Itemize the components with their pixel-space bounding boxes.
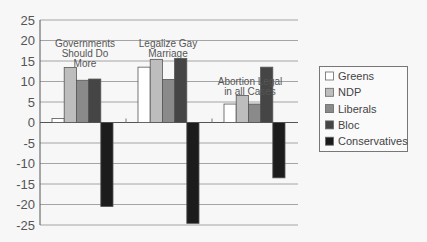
bar-conservatives xyxy=(187,123,199,224)
y-tick-label: 15 xyxy=(21,54,35,69)
category-label: More xyxy=(74,58,97,69)
legend-swatch-conservatives xyxy=(326,137,334,145)
legend-label: Conservatives xyxy=(338,135,408,147)
bar-conservatives xyxy=(101,123,113,207)
y-tick-label: -20 xyxy=(16,197,35,212)
y-tick-label: 10 xyxy=(21,74,35,89)
y-tick-label: 25 xyxy=(21,13,35,28)
legend-label: Liberals xyxy=(338,103,377,115)
legend-label: Greens xyxy=(338,70,375,82)
y-tick-label: -15 xyxy=(16,177,35,192)
y-tick-label: -10 xyxy=(16,156,35,171)
legend-swatch-liberals xyxy=(326,105,334,113)
y-tick-label: 0 xyxy=(28,115,35,130)
legend-swatch-ndp xyxy=(326,88,334,96)
legend-label: NDP xyxy=(338,86,361,98)
bar-ndp xyxy=(64,68,76,123)
bar-bloc xyxy=(175,59,187,123)
legend-swatch-greens xyxy=(326,72,334,80)
y-tick-label: -5 xyxy=(23,136,35,151)
bar-conservatives xyxy=(273,123,285,178)
bar-liberals xyxy=(162,79,174,122)
y-tick-label: -25 xyxy=(16,218,35,233)
legend-label: Bloc xyxy=(338,119,360,131)
y-axis: 2520151050-5-10-15-20-25 xyxy=(16,13,40,233)
bar-liberals xyxy=(248,104,260,122)
bar-greens xyxy=(52,118,64,122)
bar-bloc xyxy=(89,79,101,122)
legend: GreensNDPLiberalsBlocConservatives xyxy=(320,67,409,152)
grouped-bar-chart: 2520151050-5-10-15-20-25 GovernmentsShou… xyxy=(0,0,427,242)
bar-greens xyxy=(138,67,150,122)
y-tick-label: 20 xyxy=(21,33,35,48)
y-tick-label: 5 xyxy=(28,95,35,110)
legend-swatch-bloc xyxy=(326,121,334,129)
category-label: in all Cases xyxy=(224,86,276,97)
bar-liberals xyxy=(76,80,88,122)
bar-greens xyxy=(224,104,236,122)
bar-ndp xyxy=(236,95,248,122)
category-label: Marriage xyxy=(148,48,188,59)
bar-ndp xyxy=(150,59,162,122)
